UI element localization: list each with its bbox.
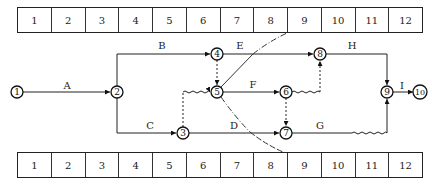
activity-label-h: H (348, 40, 357, 51)
activity-label-b: B (158, 40, 165, 51)
activity-label-e: E (236, 40, 243, 51)
node-9: 9 (381, 86, 393, 98)
activity-label-a: A (62, 80, 71, 91)
activity-label-i: I (400, 80, 404, 91)
nodes: 1 2 3 4 5 6 7 8 9 10 (11, 48, 427, 139)
check-line-upper (221, 54, 253, 87)
activity-h-arrow (326, 54, 387, 85)
node-5: 5 (211, 86, 223, 98)
node-3: 3 (177, 127, 189, 139)
node-2: 2 (111, 86, 123, 98)
network-diagram: 1 2 3 4 5 6 7 8 9 10 A B C D E F G H I (0, 0, 432, 189)
activity-g-float-wave (352, 132, 387, 134)
svg-text:7: 7 (283, 128, 289, 138)
dummy-6-8-float-wave (292, 91, 320, 93)
svg-text:2: 2 (114, 87, 120, 97)
dummy-3-5-float-wave (183, 91, 210, 93)
activity-label-g: G (316, 120, 324, 131)
svg-text:10: 10 (415, 88, 425, 97)
node-6: 6 (280, 86, 292, 98)
svg-text:8: 8 (317, 49, 323, 59)
activity-b-arrow (117, 54, 210, 86)
node-10: 10 (413, 85, 427, 99)
svg-text:1: 1 (14, 87, 20, 97)
node-7: 7 (280, 127, 292, 139)
svg-text:4: 4 (214, 49, 220, 59)
node-8: 8 (314, 48, 326, 60)
svg-text:9: 9 (384, 87, 390, 97)
svg-text:3: 3 (180, 128, 186, 138)
activity-label-c: C (146, 120, 154, 131)
activity-label-d: D (230, 120, 238, 131)
check-line-upper-dashdot (253, 33, 287, 54)
check-line-lower (250, 132, 283, 152)
node-1: 1 (11, 86, 23, 98)
svg-text:5: 5 (214, 87, 220, 97)
activity-label-f: F (250, 79, 257, 90)
svg-text:6: 6 (283, 87, 289, 97)
node-4: 4 (211, 48, 223, 60)
